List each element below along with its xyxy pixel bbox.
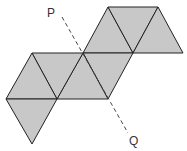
- label-q: Q: [129, 134, 138, 148]
- octahedron-net-diagram: P Q: [0, 0, 187, 151]
- triangle: [6, 99, 57, 144]
- label-p: P: [47, 6, 55, 20]
- shaded-triangles: [6, 7, 183, 144]
